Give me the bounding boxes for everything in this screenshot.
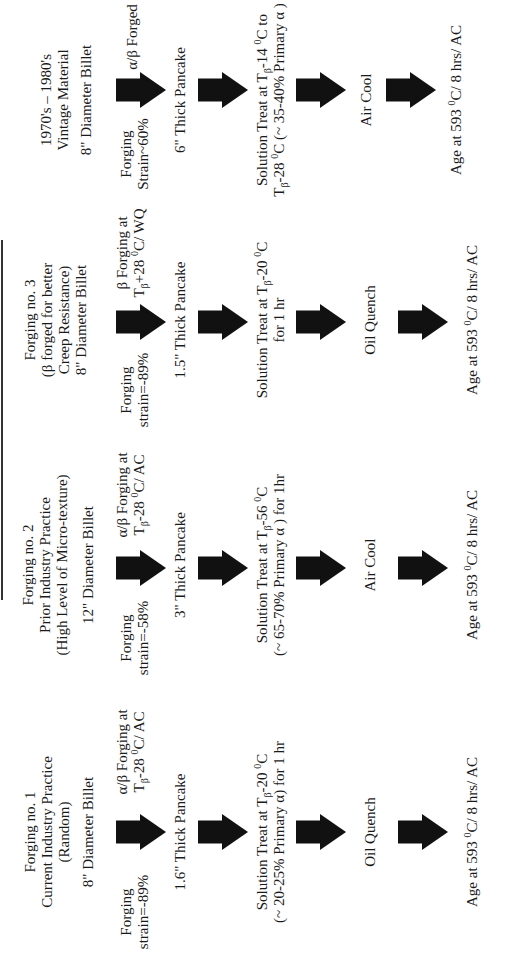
column-title: 1970's – 1980's Vintage Material [38,0,72,200]
down-arrow-icon [398,550,448,586]
down-arrow-icon [296,814,346,850]
billet-label: 12" Diameter Billet [80,440,97,690]
down-arrow-icon [198,72,248,108]
solution-treat-label: Solution Treat at Tβ-14 0C to Tβ-28 0C (… [254,0,288,210]
column-forging-2: Forging no. 2 Prior Industry Practice (H… [0,440,508,690]
cooling-label: Air Cool [362,440,379,690]
down-arrow-icon [398,304,448,340]
down-arrow-icon [198,814,248,850]
down-arrow-icon [116,304,166,340]
age-label: Age at 593 0C/ 8 hrs/ AC [464,200,481,440]
forging-strain-label: Forging strain=-89% [118,340,152,440]
down-arrow-icon [398,814,448,850]
down-arrow-icon [296,304,346,340]
column-vintage: 1970's – 1980's Vintage Material 8" Diam… [0,0,508,200]
column-title: Forging no. 2 Prior Industry Practice (H… [20,440,71,690]
billet-label: 8" Diameter Billet [73,200,90,440]
forging-process-label: α/β Forged [124,0,141,74]
column-title: Forging no. 3 (β forged for better Creep… [22,200,73,440]
forging-process-label: α/β Forging at Tβ-28 0C/ AC [114,692,148,812]
down-arrow-icon [198,304,248,340]
billet-label: 8" Diameter Billet [78,0,95,200]
cooling-label: Oil Quench [362,690,379,974]
forging-strain-label: Forging strain=-89% [118,852,152,972]
forging-process-label: β Forging at Tβ+28 0C/ WQ [114,200,148,306]
down-arrow-icon [386,72,436,108]
column-forging-1: Forging no. 1 Current Industry Practice … [0,690,508,974]
cooling-label: Air Cool [358,0,375,200]
forging-strain-label: Forging strain=-58% [118,586,152,690]
age-label: Age at 593 0C/ 8 hrs/ AC [464,690,481,974]
down-arrow-icon [198,550,248,586]
pancake-label: 6" Thick Pancake [172,0,189,200]
solution-treat-label: Solution Treat at Tβ-56 0C (~ 65-70% Pri… [254,440,288,690]
solution-treat-label: Solution Treat at Tβ-20 0C for 1 hr [254,200,288,440]
column-title: Forging no. 1 Current Industry Practice … [22,690,73,974]
pancake-label: 3" Thick Pancake [172,440,189,690]
down-arrow-icon [296,550,346,586]
process-flow-diagram: Forging no. 1 Current Industry Practice … [0,0,508,974]
billet-label: 8" Diameter Billet [80,690,97,974]
down-arrow-icon [116,72,166,108]
down-arrow-icon [296,72,346,108]
column-forging-3: Forging no. 3 (β forged for better Creep… [0,200,508,440]
age-label: Age at 593 0C/ 8 hrs/ AC [448,0,465,200]
forging-strain-label: Forging Strain~60% [118,108,152,200]
cooling-label: Oil Quench [362,200,379,440]
down-arrow-icon [116,814,166,850]
pancake-label: 1.6" Thick Pancake [172,690,189,974]
pancake-label: 1.5" Thick Pancake [172,200,189,440]
age-label: Age at 593 0C/ 8 hrs/ AC [464,440,481,690]
forging-process-label: α/β Forging at Tβ-28 0C/ AC [114,440,148,550]
down-arrow-icon [116,550,166,586]
solution-treat-label: Solution Treat at Tβ-20 0C (~ 20-25% Pri… [254,690,288,974]
